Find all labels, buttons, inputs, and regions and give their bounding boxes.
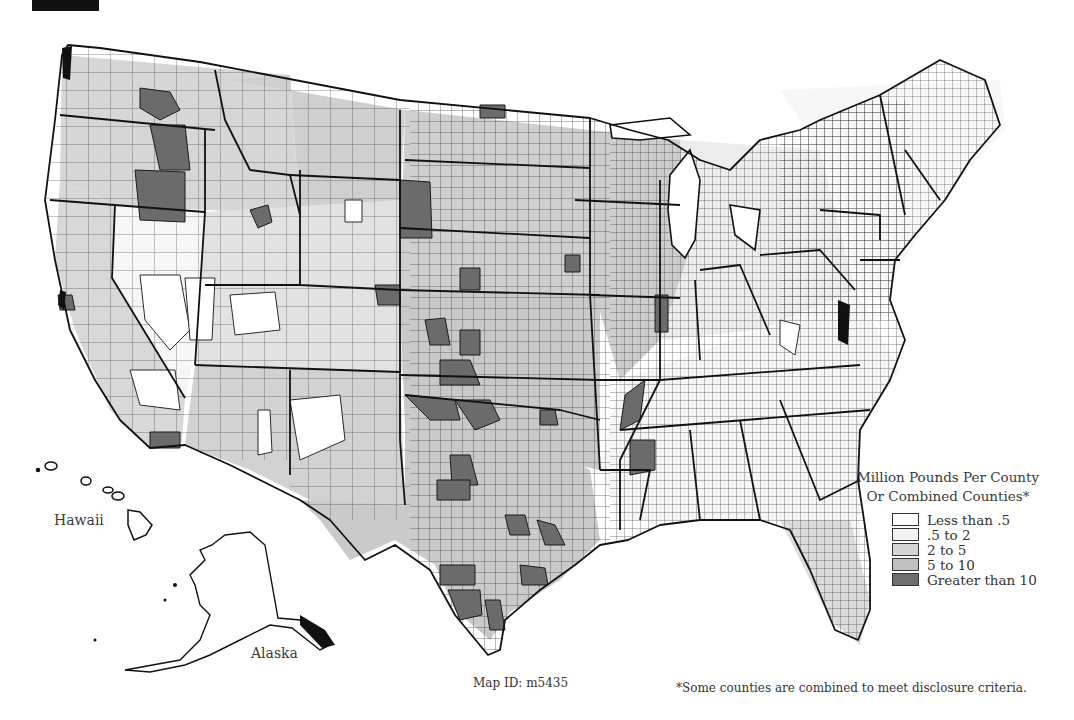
legend-title-line1: Million Pounds Per County (848, 468, 1048, 487)
legend-swatch (892, 558, 919, 571)
hawaii-inset (37, 462, 153, 540)
legend-title-line2: Or Combined Counties* (848, 487, 1048, 506)
hawaii-label: Hawaii (54, 512, 104, 528)
legend-label: 2 to 5 (927, 542, 966, 558)
legend-item-less-than-half: Less than .5 (892, 512, 1048, 527)
legend-swatch (892, 513, 919, 526)
alaska-label: Alaska (251, 645, 298, 661)
map-legend: Million Pounds Per County Or Combined Co… (848, 468, 1048, 587)
legend-item-5-to-10: 5 to 10 (892, 557, 1048, 572)
legend-swatch (892, 543, 919, 556)
legend-label: 5 to 10 (927, 557, 975, 573)
legend-item-greater-than-10: Greater than 10 (892, 572, 1048, 587)
alaska-inset (94, 532, 336, 672)
legend-label: Less than .5 (927, 512, 1010, 528)
disclosure-footnote: *Some counties are combined to meet disc… (676, 681, 1027, 695)
legend-swatch (892, 573, 919, 586)
legend-item-2-to-5: 2 to 5 (892, 542, 1048, 557)
legend-label: Greater than 10 (927, 572, 1037, 588)
legend-item-half-to-2: .5 to 2 (892, 527, 1048, 542)
legend-label: .5 to 2 (927, 527, 971, 543)
map-id-label: Map ID: m5435 (473, 676, 568, 690)
legend-swatch (892, 528, 919, 541)
us-county-map (0, 0, 1074, 720)
